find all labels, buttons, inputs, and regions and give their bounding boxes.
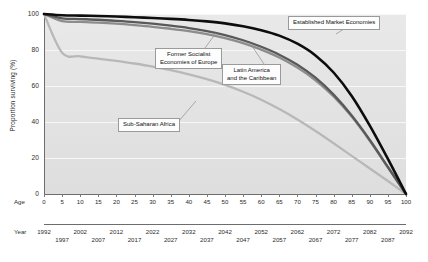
callout-established-market-economies: Established Market Economies	[288, 16, 380, 30]
callout-former-socialist-economies: Former Socialist Economies of Europe	[155, 48, 222, 69]
curve-established-market-economies	[44, 14, 406, 194]
callout-latin-line1: Latin America	[227, 67, 276, 75]
chart-figure: Proportion surviving (%) 100806040200 Ag…	[0, 0, 428, 262]
curve-latin-america-and-the-caribbean	[44, 14, 406, 194]
callout-socialist-line2: Economies of Europe	[160, 59, 217, 67]
leader-africa	[178, 101, 196, 122]
callout-sub-saharan-africa: Sub-Saharan Africa	[118, 118, 180, 132]
callout-latin-line2: and the Caribbean	[227, 75, 276, 83]
callout-socialist-line1: Former Socialist	[160, 51, 217, 59]
curve-former-socialist-economies-of-europe	[44, 14, 406, 194]
curves-overlay	[0, 0, 428, 262]
callout-latin-america: Latin America and the Caribbean	[222, 64, 281, 85]
curve-sub-saharan-africa	[44, 14, 406, 194]
